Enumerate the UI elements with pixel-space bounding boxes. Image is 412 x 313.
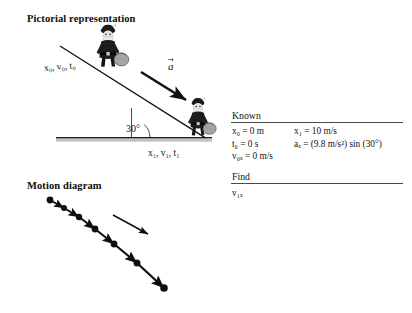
known-cell-v0x: v₀ₓ = 0 m/s: [232, 151, 294, 161]
final-state-label: x₁, v₁, t₁: [148, 148, 180, 158]
vector-arrow-overbar-icon: [168, 57, 174, 62]
acceleration-arrow: [141, 72, 186, 100]
known-cell-t0: t₀ = 0 s: [232, 139, 294, 149]
find-title: Find: [231, 171, 403, 183]
find-block: Find v₁ₓ: [231, 171, 403, 198]
motion-acceleration-arrow: [113, 215, 148, 234]
known-cell-x0: x₀ = 0 m: [232, 126, 294, 136]
known-rows: x₀ = 0 m x₁ = 10 m/s t₀ = 0 s aₓ = (9.8 …: [231, 125, 403, 161]
known-cell-x1: x₁ = 10 m/s: [294, 126, 403, 136]
physics-figure-page: Pictorial representation: [0, 0, 412, 313]
angle-arc: [144, 124, 150, 137]
motion-diagram: v a: [0, 172, 232, 313]
motion-dot: [111, 241, 118, 248]
motion-dot: [160, 284, 168, 292]
find-rule: [231, 183, 403, 184]
motion-dot: [76, 214, 82, 220]
known-cell-empty: [294, 151, 403, 161]
pictorial-representation-diagram: x₀, v₀, t₀ x₁, v₁, t₁ 30° a: [0, 0, 232, 175]
incline-angle-label: 30°: [126, 123, 140, 134]
motion-dot: [92, 226, 99, 233]
motion-segments: [50, 200, 164, 288]
motion-dot: [134, 260, 141, 267]
motion-diagram-svg: [0, 172, 232, 313]
pictorial-svg: [0, 0, 232, 175]
known-title: Known: [231, 110, 403, 122]
motion-dot: [47, 197, 54, 204]
known-rule: [231, 122, 403, 123]
find-item-v1x: v₁ₓ: [231, 186, 403, 198]
skier-figure-initial: [97, 24, 129, 67]
known-find-table: Known x₀ = 0 m x₁ = 10 m/s t₀ = 0 s aₓ =…: [231, 110, 403, 198]
motion-dot: [61, 205, 67, 211]
motion-dots: [47, 197, 168, 292]
known-cell-ax: aₓ = (9.8 m/s²) sin (30°): [294, 139, 403, 149]
acceleration-vector-label-pictorial: a: [168, 60, 174, 72]
